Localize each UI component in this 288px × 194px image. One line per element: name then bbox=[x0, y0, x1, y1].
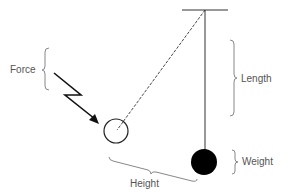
force-label: Force bbox=[10, 64, 36, 75]
length-label: Length bbox=[241, 73, 272, 84]
force-brace bbox=[42, 48, 49, 90]
force-arrow bbox=[54, 73, 95, 119]
weight-bob bbox=[191, 149, 217, 175]
pendulum-string-swung bbox=[117, 10, 205, 130]
pendulum-diagram: Length Weight Height Force bbox=[0, 0, 288, 194]
weight-label: Weight bbox=[242, 156, 273, 167]
height-label: Height bbox=[130, 178, 159, 189]
weight-brace bbox=[232, 150, 238, 174]
swung-bob bbox=[104, 119, 128, 143]
length-brace bbox=[230, 40, 237, 116]
